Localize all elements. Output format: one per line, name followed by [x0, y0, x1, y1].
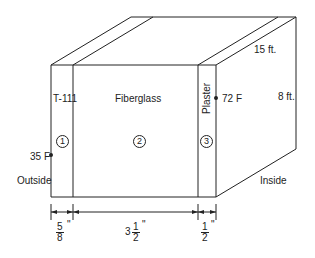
outside-temperature: 35 F [30, 152, 50, 162]
inside-label: Inside [260, 176, 287, 186]
layer-3-label: Plaster [201, 83, 212, 114]
wall-diagram [0, 0, 315, 258]
layer-1-label: T-111 [53, 94, 77, 104]
layer-2-number: 2 [133, 135, 146, 148]
layer-2-label: Fiberglass [115, 94, 161, 104]
length-dimension: 15 ft. [254, 45, 276, 55]
layer-1-unit: " [67, 220, 71, 230]
layer-1-thickness: 5 8 [56, 222, 64, 243]
outside-label: Outside [17, 176, 51, 186]
layer-2-whole: 3 [125, 227, 131, 237]
height-dimension: 8 ft. [278, 92, 295, 102]
layer-3-unit: " [211, 220, 215, 230]
layer-1-number: 1 [56, 135, 69, 148]
layer-3-thickness: 1 2 [201, 222, 209, 243]
inside-temperature: 72 F [222, 94, 242, 104]
layer-2-thickness: 1 2 [132, 222, 140, 243]
layer-3-number: 3 [200, 135, 213, 148]
layer-2-unit: " [142, 220, 146, 230]
